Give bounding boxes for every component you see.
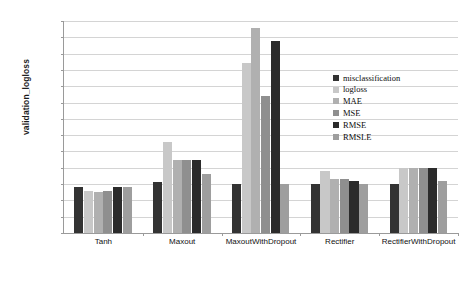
legend-item[interactable]: RMSE	[333, 119, 429, 131]
bar	[399, 168, 408, 233]
y-tick-mark	[61, 135, 64, 136]
bar	[251, 28, 260, 233]
y-tick-mark	[61, 37, 64, 38]
y-tick-mark	[61, 233, 64, 234]
legend-swatch-icon	[333, 122, 339, 128]
bar-group	[74, 21, 132, 233]
bar	[202, 174, 211, 233]
legend-item-label: RMSE	[343, 121, 366, 130]
legend-swatch-icon	[333, 75, 339, 81]
x-tick-mark	[222, 233, 223, 236]
y-tick-mark	[61, 151, 64, 152]
y-tick-mark	[61, 200, 64, 201]
bar	[438, 181, 447, 233]
bar	[182, 160, 191, 233]
bar	[153, 182, 162, 233]
bar	[261, 96, 270, 233]
bar	[409, 168, 418, 233]
bar	[419, 168, 428, 233]
bar	[330, 179, 339, 233]
bar	[242, 63, 251, 233]
chart-legend: misclassificationloglossMAEMSERMSERMSLE	[333, 72, 429, 143]
bar	[163, 142, 172, 233]
bar	[359, 184, 368, 233]
y-tick-mark	[61, 103, 64, 104]
x-tick-label: Maxout	[143, 237, 222, 246]
y-tick-mark	[61, 119, 64, 120]
bar	[428, 168, 437, 233]
x-tick-label: Tanh	[64, 237, 143, 246]
y-tick-mark	[61, 21, 64, 22]
legend-item[interactable]: MSE	[333, 107, 429, 119]
legend-swatch-icon	[333, 134, 339, 140]
y-tick-mark	[61, 86, 64, 87]
legend-swatch-icon	[333, 110, 339, 116]
legend-swatch-icon	[333, 87, 339, 93]
bar	[340, 179, 349, 233]
bar	[74, 187, 83, 233]
bar	[280, 184, 289, 233]
bar-chart: validation_logloss 0.650.60.550.50.450.4…	[0, 0, 472, 281]
y-tick-mark	[61, 70, 64, 71]
y-tick-mark	[61, 217, 64, 218]
x-tick-label: RectifierWithDropout	[379, 237, 458, 246]
x-tick-label: MaxoutWithDropout	[222, 237, 301, 246]
legend-item-label: logloss	[343, 85, 367, 94]
bar	[311, 184, 320, 233]
x-tick-mark	[300, 233, 301, 236]
x-tick-mark	[143, 233, 144, 236]
bar	[123, 187, 132, 233]
x-tick-label: Rectifier	[300, 237, 379, 246]
y-axis-title: validation_logloss	[21, 27, 31, 167]
bar	[349, 181, 358, 233]
bar	[232, 184, 241, 233]
y-tick-mark	[61, 168, 64, 169]
bar	[84, 191, 93, 233]
y-tick-mark	[61, 54, 64, 55]
x-tick-mark	[458, 233, 459, 236]
bar	[103, 191, 112, 233]
y-tick-mark	[61, 184, 64, 185]
bar	[271, 41, 280, 233]
legend-item-label: RMSLE	[343, 133, 371, 142]
x-tick-mark	[379, 233, 380, 236]
legend-item[interactable]: logloss	[333, 84, 429, 96]
bar-group	[153, 21, 211, 233]
legend-item[interactable]: RMSLE	[333, 131, 429, 143]
legend-item[interactable]: MAE	[333, 96, 429, 108]
legend-item-label: MAE	[343, 97, 362, 106]
bar	[390, 184, 399, 233]
legend-swatch-icon	[333, 98, 339, 104]
bar	[113, 187, 122, 233]
bar	[94, 192, 103, 233]
bar	[173, 160, 182, 233]
legend-item-label: MSE	[343, 109, 360, 118]
legend-item-label: misclassification	[343, 74, 400, 83]
legend-item[interactable]: misclassification	[333, 72, 429, 84]
bar-group	[232, 21, 290, 233]
bar	[192, 160, 201, 233]
bar	[320, 171, 329, 233]
